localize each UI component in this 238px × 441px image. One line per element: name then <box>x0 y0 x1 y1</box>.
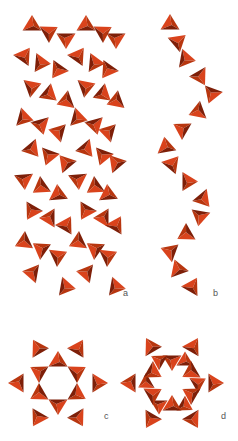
tetrahedron-icon <box>24 80 42 98</box>
tetrahedron-icon <box>27 201 43 219</box>
tetrahedron-icon <box>49 400 68 416</box>
tetrahedron-icon <box>181 278 197 296</box>
tetrahedron-icon <box>14 174 33 190</box>
tetrahedron-icon <box>192 189 209 207</box>
tetrahedron-icon <box>110 155 127 173</box>
tetrahedron-icon <box>67 408 83 426</box>
tetrahedron-icon <box>15 231 33 248</box>
tetrahedron-icon <box>177 223 195 239</box>
tetrahedron-icon <box>93 83 111 100</box>
tetrahedron-icon <box>49 250 67 267</box>
tetrahedron-icon <box>171 260 189 278</box>
tetrahedron-icon <box>21 139 38 157</box>
tetrahedron-icon <box>87 176 105 193</box>
tetrahedron-icon <box>30 383 48 399</box>
tetrahedron-icon <box>84 117 102 134</box>
tetrahedron-icon <box>189 67 205 85</box>
tetrahedron-icon <box>33 243 51 260</box>
panel-label-a: a <box>123 288 128 298</box>
tetrahedron-icon <box>183 172 199 191</box>
tetrahedron-icon <box>48 124 65 142</box>
tetrahedron-icon <box>68 174 87 190</box>
tetrahedron-icon <box>179 49 196 68</box>
tetrahedron-icon <box>68 383 86 399</box>
tetrahedron-icon <box>205 86 223 104</box>
tetrahedron-icon <box>13 48 30 66</box>
tetrahedron-icon <box>93 374 109 393</box>
tetrahedron-icon <box>33 176 51 193</box>
tetrahedron-icon <box>107 34 126 50</box>
panel-c-ring <box>8 340 108 427</box>
tetrahedron-icon <box>68 367 86 383</box>
tetrahedron-icon <box>59 277 76 296</box>
tetrahedron-icon <box>52 60 69 78</box>
tetrahedron-icon <box>146 338 162 356</box>
tetrahedron-icon <box>49 184 68 200</box>
tetrahedron-icon <box>89 53 105 72</box>
tetrahedron-icon <box>209 374 225 393</box>
tetrahedron-icon <box>69 231 87 248</box>
tetrahedron-icon <box>81 201 97 219</box>
tetrahedron-icon <box>67 340 83 358</box>
tetrahedron-icon <box>35 53 51 72</box>
tetrahedron-icon <box>192 209 211 226</box>
tetrahedron-icon <box>55 216 71 234</box>
tetrahedron-icon <box>161 244 179 262</box>
tetrahedron-icon <box>189 101 207 119</box>
tetrahedron-icon <box>158 137 177 154</box>
tetrahedron-icon <box>39 27 57 43</box>
tetrahedron-icon <box>99 250 117 267</box>
panel-b-helical-chain <box>158 14 223 296</box>
tetrahedron-icon <box>30 117 48 134</box>
tetrahedron-icon <box>75 139 92 157</box>
tetrahedron-icon <box>161 156 178 174</box>
tetrahedron-icon <box>120 374 136 393</box>
tetrahedron-icon <box>33 340 49 358</box>
panel-label-c: c <box>104 411 109 421</box>
panel-label-b: b <box>213 288 218 298</box>
tetrahedron-icon <box>67 48 84 66</box>
tetrahedron-icon <box>173 124 191 140</box>
tetrahedron-icon <box>78 80 96 98</box>
tetrahedron-icon <box>70 107 87 125</box>
tetrahedron-icon <box>8 374 24 393</box>
tetrahedron-icon <box>30 367 48 383</box>
tetrahedron-icon <box>182 410 198 428</box>
tetrahedron-icon <box>102 60 119 78</box>
tetrahedron-icon <box>33 408 49 426</box>
tetrahedron-icon <box>60 155 77 173</box>
tetrahedron-icon <box>98 124 115 142</box>
tetrahedron-icon <box>57 34 76 50</box>
tetrahedron-icon <box>39 83 57 100</box>
tetrahedron-icon <box>23 15 42 31</box>
tetrahedron-icon <box>42 148 60 166</box>
tetrahedron-icon <box>76 265 93 284</box>
tetrahedron-icon <box>57 90 75 108</box>
panel-label-d: d <box>221 411 226 421</box>
tetrahedron-icon <box>77 15 96 31</box>
tetrahedron-icon <box>49 351 68 367</box>
tetrahedron-icon <box>99 184 118 200</box>
crystal-structure-figure <box>0 0 238 441</box>
panel-a-double-chain <box>13 15 127 295</box>
tetrahedron-icon <box>161 14 180 30</box>
panel-d-double-ring <box>120 338 224 428</box>
tetrahedron-icon <box>16 107 33 125</box>
tetrahedron-icon <box>22 265 39 284</box>
